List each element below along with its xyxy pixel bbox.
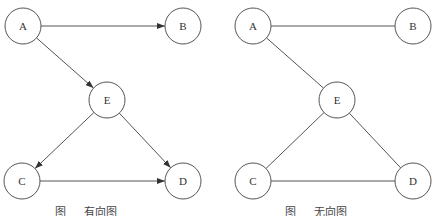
edge-e-c bbox=[35, 112, 94, 168]
caption-directed-graph: 图有向图 bbox=[55, 203, 117, 216]
node-label: B bbox=[179, 20, 186, 32]
edge-e-d bbox=[119, 113, 170, 168]
node-d: D bbox=[165, 163, 201, 199]
edge-a-e bbox=[37, 38, 94, 88]
node-b: B bbox=[165, 8, 201, 44]
node-c: C bbox=[235, 163, 271, 199]
node-c: C bbox=[4, 163, 40, 199]
caption-prefix: 图 bbox=[55, 206, 66, 216]
edge-e-c bbox=[266, 112, 324, 168]
node-label: A bbox=[19, 20, 27, 32]
node-e: E bbox=[319, 82, 355, 118]
node-label: A bbox=[249, 20, 257, 32]
node-label: B bbox=[409, 20, 416, 32]
edge-a-e bbox=[267, 38, 324, 88]
node-label: E bbox=[334, 94, 341, 106]
node-label: E bbox=[104, 94, 111, 106]
node-a: A bbox=[235, 8, 271, 44]
node-label: D bbox=[409, 175, 417, 187]
node-label: D bbox=[179, 175, 187, 187]
graph-canvas: ABECDABECD bbox=[0, 0, 434, 216]
node-a: A bbox=[5, 8, 41, 44]
node-label: C bbox=[18, 175, 25, 187]
caption-label: 无向图 bbox=[314, 206, 347, 216]
node-e: E bbox=[89, 82, 125, 118]
node-label: C bbox=[249, 175, 256, 187]
nodes-layer: ABECDABECD bbox=[4, 8, 431, 199]
caption-label: 有向图 bbox=[84, 206, 117, 216]
caption-undirected-graph: 图无向图 bbox=[285, 203, 347, 216]
caption-prefix: 图 bbox=[285, 206, 296, 216]
edge-e-d bbox=[349, 113, 400, 168]
node-b: B bbox=[395, 8, 431, 44]
node-d: D bbox=[395, 163, 431, 199]
